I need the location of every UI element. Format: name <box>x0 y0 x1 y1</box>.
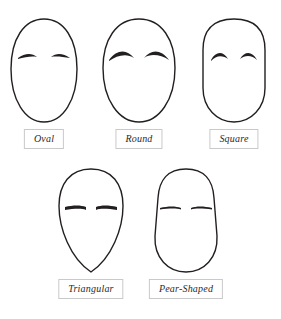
triangular-face-outline <box>59 169 123 272</box>
face-label-round: Round <box>115 129 162 149</box>
face-label-triangular: Triangular <box>58 279 123 299</box>
face-label-pear-shaped: Pear-Shaped <box>149 279 223 299</box>
triangular-face-illustration <box>48 166 134 278</box>
round-face-outline <box>103 19 175 122</box>
oval-face-outline <box>11 19 77 122</box>
square-face-outline <box>203 19 265 122</box>
face-shape-diagram: Oval Round Square Triangular <box>0 0 281 319</box>
round-face-illustration <box>96 16 182 128</box>
face-card-triangular: Triangular <box>48 166 134 301</box>
face-card-round: Round <box>96 16 182 151</box>
square-face-illustration <box>191 16 277 128</box>
face-card-pear-shaped: Pear-Shaped <box>143 166 229 301</box>
oval-face-illustration <box>1 16 87 128</box>
pear-shaped-face-outline <box>155 169 217 272</box>
face-card-square: Square <box>191 16 277 151</box>
face-card-oval: Oval <box>1 16 87 151</box>
pear-shaped-face-illustration <box>143 166 229 278</box>
face-label-oval: Oval <box>24 129 64 149</box>
face-label-square: Square <box>209 129 258 149</box>
